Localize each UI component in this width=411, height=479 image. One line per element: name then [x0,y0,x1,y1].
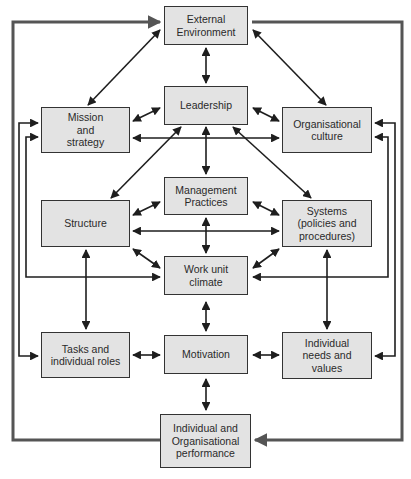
node-leadership: Leadership [164,86,248,125]
node-label: Organisational culture [293,118,361,143]
node-label: Motivation [182,348,230,361]
node-label: Systems (policies and procedures) [298,205,357,243]
connector-mission-tasks [19,123,38,356]
node-label: Structure [64,217,107,230]
node-label: Tasks and individual roles [51,343,120,368]
node-individual-needs: Individual needs and values [282,332,372,379]
arrow-external-mission [88,30,160,105]
node-label: Individual needs and values [302,337,351,375]
arrow-systems-workunit [253,249,279,268]
arrow-leadership-culture [253,108,279,121]
node-label: Individual and Organisational performanc… [172,422,240,460]
arrow-external-culture [253,30,326,105]
node-performance: Individual and Organisational performanc… [160,414,251,468]
node-structure: Structure [41,200,130,247]
node-label: Management Practices [175,184,236,209]
node-label: External Environment [177,13,236,38]
node-label: Work unit climate [184,263,228,288]
arrow-management-systems [253,202,279,215]
node-systems: Systems (policies and procedures) [282,200,372,247]
org-performance-diagram: External Environment Leadership Mission … [0,0,411,479]
arrow-structure-workunit [133,249,160,268]
node-tasks-roles: Tasks and individual roles [41,332,130,378]
node-management-practices: Management Practices [164,177,248,215]
node-label: Leadership [180,99,232,112]
node-work-unit-climate: Work unit climate [164,256,248,295]
node-motivation: Motivation [164,335,248,374]
arrow-leadership-mission [133,108,160,121]
node-external-environment: External Environment [164,6,248,45]
node-label: Mission and strategy [67,111,104,149]
node-organisational-culture: Organisational culture [282,107,372,153]
arrow-management-structure [133,202,160,215]
node-mission-strategy: Mission and strategy [41,107,130,153]
connector-culture-needs [375,123,395,356]
